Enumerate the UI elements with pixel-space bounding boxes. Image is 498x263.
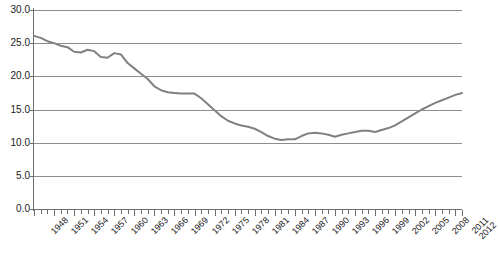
x-axis-tick-label: 1996: [370, 215, 391, 236]
x-axis-tick-label: 1966: [169, 215, 190, 236]
gridline: [34, 43, 462, 44]
x-axis-tick-label: 1978: [249, 215, 270, 236]
x-axis-tick-label: 1993: [350, 215, 371, 236]
y-axis-tick: [30, 10, 34, 11]
y-axis-tick-label: 25.0: [11, 38, 30, 48]
y-axis-labels: 0.05.010.015.020.025.030.0: [0, 0, 32, 215]
x-axis-tick-label: 1948: [49, 215, 70, 236]
plot-area: [34, 10, 462, 209]
x-axis-tick-label: 1957: [109, 215, 130, 236]
y-axis-tick-label: 5.0: [16, 171, 30, 181]
gridline: [34, 76, 462, 77]
y-axis-tick-label: 0.0: [16, 204, 30, 214]
x-axis-tick-label: 2008: [450, 215, 471, 236]
y-axis-tick-label: 30.0: [11, 5, 30, 15]
gridline: [34, 176, 462, 177]
x-axis-tick-label: 2002: [410, 215, 431, 236]
x-axis-tick-label: 1975: [229, 215, 250, 236]
x-axis-tick-label: 1972: [209, 215, 230, 236]
x-axis-tick-label: 1954: [89, 215, 110, 236]
gridline: [34, 143, 462, 144]
y-axis-tick: [30, 76, 34, 77]
y-axis-tick: [30, 176, 34, 177]
x-axis-tick-label: 1999: [390, 215, 411, 236]
y-axis-tick: [30, 43, 34, 44]
y-axis-tick: [30, 209, 34, 210]
x-axis-tick-label: 1981: [270, 215, 291, 236]
x-axis-tick-label: 1960: [129, 215, 150, 236]
gridline: [34, 10, 462, 11]
x-axis-tick-label: 1984: [290, 215, 311, 236]
y-axis-tick: [30, 110, 34, 111]
y-axis-tick-label: 20.0: [11, 71, 30, 81]
x-axis-tick-label: 1987: [310, 215, 331, 236]
y-axis-tick: [30, 143, 34, 144]
gridline: [34, 110, 462, 111]
y-axis-tick-label: 10.0: [11, 138, 30, 148]
y-axis-tick-label: 15.0: [11, 105, 30, 115]
x-axis-tick-label: 2005: [430, 215, 451, 236]
x-axis-labels: 1948195119541957196019631966196919721975…: [0, 214, 466, 263]
x-axis-tick-label: 1963: [149, 215, 170, 236]
x-axis-tick-label: 1951: [69, 215, 90, 236]
x-axis-tick-label: 1990: [330, 215, 351, 236]
x-axis-tick-label: 1969: [189, 215, 210, 236]
